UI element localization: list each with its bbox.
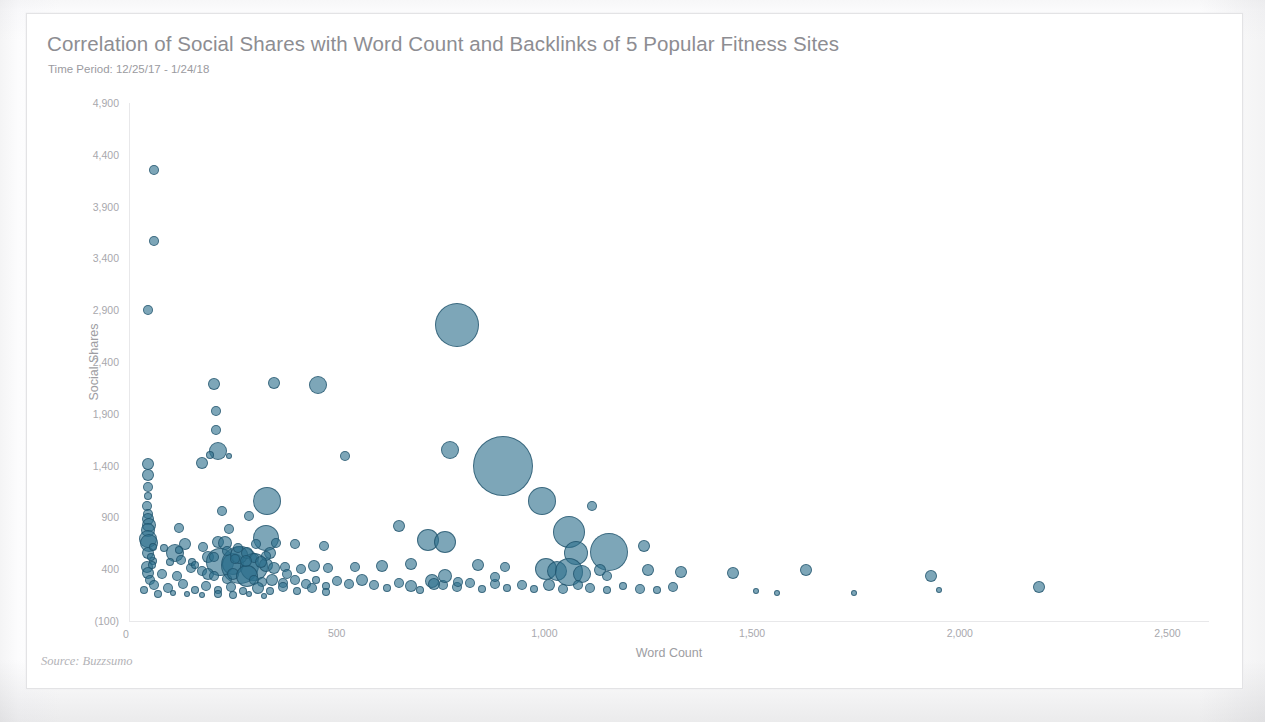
bubble-point <box>478 585 486 593</box>
bubble-point <box>653 586 661 594</box>
bubble-point <box>340 451 350 461</box>
bubble-point <box>251 539 261 549</box>
y-tick-label: 900 <box>101 511 119 523</box>
bubble-point <box>290 539 300 549</box>
y-tick-label: 2,900 <box>93 304 119 316</box>
bubble-point <box>800 564 812 576</box>
bubble-point <box>603 586 611 594</box>
bubble-point <box>642 564 654 576</box>
bubble-point <box>149 236 159 246</box>
bubble-point <box>530 585 538 593</box>
x-tick-label: 500 <box>328 627 346 639</box>
y-axis-title: Social Shares <box>87 323 101 400</box>
bubble-point <box>142 458 154 470</box>
bubble-point <box>936 587 942 593</box>
origin-tick-label: 0 <box>123 628 129 640</box>
bubble-point <box>434 531 456 553</box>
bubble-point <box>201 581 211 591</box>
bubble-point <box>176 555 186 565</box>
bubble-point <box>307 583 317 593</box>
bubble-point <box>393 520 405 532</box>
y-tick-label: 1,400 <box>93 460 119 472</box>
bubble-point <box>290 575 300 585</box>
bubble-point <box>206 451 214 459</box>
bubble-point <box>528 487 556 515</box>
bubble-point <box>226 453 232 459</box>
bubble-point <box>178 579 188 589</box>
x-tick-label: 1,500 <box>739 627 765 639</box>
bubble-point <box>217 506 227 516</box>
bubble-point <box>149 543 157 551</box>
x-tick-label: 1,000 <box>531 627 557 639</box>
bubble-point <box>143 305 153 315</box>
chart-card: Correlation of Social Shares with Word C… <box>26 13 1243 689</box>
bubble-point <box>635 584 645 594</box>
bubble-point <box>312 576 320 584</box>
bubble-point <box>356 574 368 586</box>
bubble-point <box>266 574 278 586</box>
bubble-point <box>727 567 739 579</box>
plot-area: (100)4009001,4001,9002,4002,9003,4003,90… <box>129 103 1209 621</box>
bubble-point <box>157 569 167 579</box>
bubble-point <box>255 556 267 568</box>
source-note: Source: Buzzsumo <box>41 654 133 669</box>
bubble-point <box>140 586 148 594</box>
bubble-point <box>473 436 533 496</box>
bubble-point <box>308 560 320 572</box>
bubble-point <box>174 523 184 533</box>
chart-subtitle: Time Period: 12/25/17 - 1/24/18 <box>48 63 209 75</box>
bubble-point <box>142 469 154 481</box>
bubble-point <box>558 584 568 594</box>
bubble-point <box>208 378 220 390</box>
bubble-point <box>175 546 183 554</box>
bubble-point <box>144 492 152 500</box>
bubble-point <box>154 590 162 598</box>
y-tick-label: 3,400 <box>93 252 119 264</box>
bubble-point <box>184 591 190 597</box>
bubble-point <box>147 553 155 561</box>
bubble-point <box>668 582 678 592</box>
bubble-point <box>278 582 288 592</box>
x-axis-line <box>129 621 1209 622</box>
bubble-point <box>638 540 650 552</box>
bubble-point <box>246 591 252 597</box>
bubble-point <box>585 583 595 593</box>
bubble-point <box>268 377 280 389</box>
bubble-point <box>602 571 612 581</box>
bubble-point <box>465 578 475 588</box>
bubble-point <box>1033 581 1045 593</box>
bubble-point <box>332 576 342 586</box>
bubble-point <box>503 584 511 592</box>
bubble-point <box>323 563 333 573</box>
bubble-point <box>253 487 281 515</box>
bubble-point <box>191 561 199 569</box>
bubble-point <box>441 441 459 459</box>
bubble-point <box>500 562 510 572</box>
bubble-point <box>416 586 424 594</box>
bubble-point <box>309 376 327 394</box>
bubble-point <box>619 582 627 590</box>
bubble-point <box>394 578 404 588</box>
bubble-point <box>587 501 597 511</box>
bubble-point <box>296 564 306 574</box>
bubble-point <box>472 559 484 571</box>
page-title: Correlation of Social Shares with Word C… <box>47 32 839 56</box>
y-tick-label: 4,400 <box>93 149 119 161</box>
y-tick-label: 4,900 <box>93 97 119 109</box>
bubble-point <box>517 580 527 590</box>
bubble-point <box>293 587 301 595</box>
bubble-point <box>224 524 234 534</box>
y-tick-label: (100) <box>94 615 119 627</box>
bubble-point <box>319 541 329 551</box>
bubble-point <box>170 590 176 596</box>
x-tick-label: 2,500 <box>1154 627 1180 639</box>
bubble-point <box>376 560 388 572</box>
bubble-point <box>209 571 219 581</box>
bubble-point <box>211 425 221 435</box>
bubble-point <box>435 303 479 347</box>
bubble-point <box>222 546 232 556</box>
bubble-series <box>129 103 1209 621</box>
bubble-point <box>244 511 254 521</box>
bubble-point <box>851 590 857 596</box>
bubble-point <box>196 457 208 469</box>
